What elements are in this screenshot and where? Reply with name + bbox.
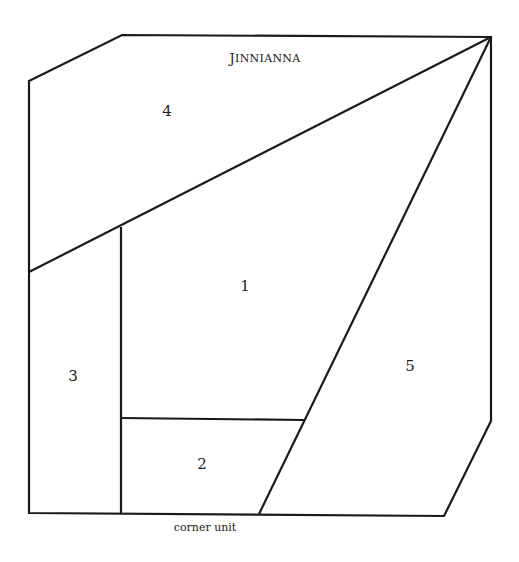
seam-diagonal-top xyxy=(29,37,491,272)
corner-unit-diagram: JINNIANNA 4 1 3 5 2 corner unit xyxy=(0,0,519,562)
piece-label-1: 1 xyxy=(240,277,250,295)
piece-label-2: 2 xyxy=(197,455,207,473)
seam-diagonal-right xyxy=(259,37,491,514)
piece-label-5: 5 xyxy=(405,357,415,375)
piece-label-4: 4 xyxy=(162,102,172,120)
piece-label-3: 3 xyxy=(68,367,78,385)
seam-horizontal xyxy=(121,418,304,420)
diagram-caption: corner unit xyxy=(174,521,237,534)
diagram-title: JINNIANNA xyxy=(228,51,302,66)
outer-outline xyxy=(29,35,491,516)
